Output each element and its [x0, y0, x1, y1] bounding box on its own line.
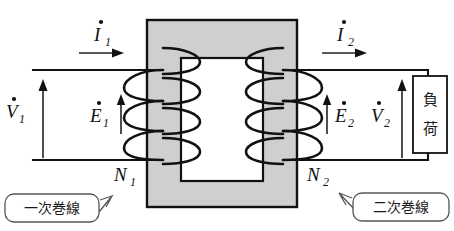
load-box: 負 荷 [413, 76, 447, 153]
callout-primary-leader-line [99, 196, 112, 212]
turns-secondary-subscript: 2 [323, 175, 329, 189]
voltage-primary-subscript: 1 [19, 112, 25, 126]
secondary-circuit-wires [283, 70, 428, 160]
callout-primary-winding: 一次巻線 [5, 194, 112, 222]
emf-secondary-group: E 2 [323, 94, 354, 134]
current-secondary-subscript: 2 [348, 35, 354, 49]
voltage-secondary-symbol: V [371, 105, 385, 126]
voltage-secondary-subscript: 2 [384, 116, 390, 130]
emf-secondary-overdot [342, 101, 346, 105]
voltage-secondary-overdot [377, 101, 381, 105]
current-primary-arrow-icon [79, 49, 124, 58]
load-label-line2: 荷 [423, 120, 438, 138]
turns-primary-subscript: 1 [130, 175, 136, 189]
load-label-line1: 負 [423, 91, 438, 109]
emf-secondary-subscript: 2 [348, 116, 354, 130]
current-secondary-overdot [342, 20, 346, 24]
voltage-secondary-group: V 2 [371, 79, 407, 158]
emf-secondary-symbol: E [334, 105, 347, 126]
turns-primary-group: N 1 [113, 164, 136, 189]
transformer-diagram: 負 荷 I 1 I 2 V 1 E 1 [0, 0, 454, 231]
current-primary-subscript: 1 [105, 35, 111, 49]
emf-primary-subscript: 1 [103, 116, 109, 130]
load-box-rect [413, 76, 447, 153]
emf-primary-group: E 1 [89, 94, 125, 134]
turns-primary-symbol: N [113, 164, 128, 185]
callout-secondary-label: 二次巻線 [373, 199, 429, 215]
voltage-secondary-arrow-icon [398, 79, 407, 158]
current-secondary-group: I 2 [322, 20, 367, 58]
turns-secondary-group: N 2 [306, 164, 329, 189]
voltage-primary-symbol: V [6, 101, 20, 122]
current-primary-overdot [99, 20, 103, 24]
current-primary-symbol: I [93, 24, 102, 45]
voltage-primary-arrow-icon [39, 79, 48, 158]
current-secondary-symbol: I [336, 24, 345, 45]
core-window-rect [181, 58, 263, 181]
voltage-primary-overdot [12, 97, 16, 101]
callout-secondary-winding: 二次巻線 [339, 193, 449, 221]
emf-primary-overdot [97, 101, 101, 105]
voltage-primary-group: V 1 [6, 79, 48, 158]
callout-primary-label: 一次巻線 [24, 200, 80, 216]
emf-secondary-arrow-icon [323, 94, 331, 134]
emf-primary-symbol: E [89, 105, 102, 126]
turns-secondary-symbol: N [306, 164, 321, 185]
current-primary-group: I 1 [79, 20, 124, 58]
current-secondary-arrow-icon [322, 49, 367, 58]
